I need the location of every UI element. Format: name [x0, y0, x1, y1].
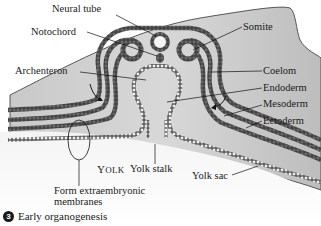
label-extraembryonic-line1: Form extraembryonic: [54, 186, 145, 197]
label-yolk-initial: Y: [97, 163, 105, 175]
label-archenteron: Archenteron: [15, 66, 67, 77]
caption-text: Early organogenesis: [18, 210, 107, 222]
label-yolk-sac: Yolk sac: [192, 171, 228, 182]
label-extraembryonic-line2: membranes: [54, 197, 102, 208]
leader-neural-tube: [116, 15, 156, 36]
label-ectoderm: Ectoderm: [263, 116, 304, 127]
label-yolk-rest: OLK: [105, 165, 124, 175]
label-mesoderm: Mesoderm: [263, 99, 308, 110]
label-endoderm: Endoderm: [263, 83, 307, 94]
label-coelom: Coelom: [263, 66, 296, 77]
label-yolk-stalk: Yolk stalk: [130, 164, 172, 175]
step-number-badge: 3: [3, 211, 14, 222]
label-yolk: YOLK: [97, 164, 125, 175]
label-notochord: Notochord: [31, 27, 76, 38]
neural-tube: [152, 34, 168, 50]
label-neural-tube: Neural tube: [52, 4, 101, 15]
label-somite: Somite: [243, 22, 273, 33]
notochord: [156, 53, 164, 63]
figure-caption: 3 Early organogenesis: [3, 210, 107, 222]
